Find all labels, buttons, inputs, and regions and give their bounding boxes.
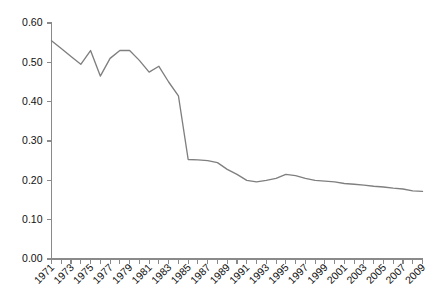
- x-tick-label: 1975: [70, 261, 95, 286]
- line-chart: 0.000.100.200.300.400.500.60 19711973197…: [0, 0, 442, 303]
- x-tick-label: 1973: [51, 261, 76, 286]
- y-tick-label: 0.40: [22, 95, 43, 107]
- x-tick-label: 1987: [188, 261, 213, 286]
- x-tick-label: 2003: [344, 261, 369, 286]
- x-tick-label: 2009: [402, 261, 427, 286]
- y-tick-label: 0.30: [22, 134, 43, 146]
- data-series: [52, 41, 423, 192]
- x-tick-label: 1981: [129, 261, 154, 286]
- series-line: [52, 41, 423, 192]
- x-tick-label: 1983: [149, 261, 174, 286]
- y-tick-label: 0.00: [22, 252, 43, 264]
- x-tick-label: 1989: [207, 261, 232, 286]
- y-axis: 0.000.100.200.300.400.500.60: [22, 16, 51, 264]
- x-tick-label: 2001: [324, 261, 349, 286]
- x-tick-label: 2007: [383, 261, 408, 286]
- x-axis: 1971197319751977197919811983198519871989…: [31, 259, 427, 286]
- x-tick-label: 1999: [305, 261, 330, 286]
- x-tick-label: 1977: [90, 261, 115, 286]
- x-tick-label: 1991: [227, 261, 252, 286]
- x-tick-label: 1971: [31, 261, 56, 286]
- y-tick-label: 0.60: [22, 16, 43, 28]
- y-tick-label: 0.10: [22, 213, 43, 225]
- x-tick-label: 2005: [363, 261, 388, 286]
- x-tick-label: 1985: [168, 261, 193, 286]
- y-tick-label: 0.50: [22, 56, 43, 68]
- x-tick-label: 1993: [246, 261, 271, 286]
- x-tick-label: 1995: [266, 261, 291, 286]
- x-tick-label: 1997: [285, 261, 310, 286]
- chart-canvas: 0.000.100.200.300.400.500.60 19711973197…: [0, 0, 442, 303]
- y-tick-label: 0.20: [22, 174, 43, 186]
- x-tick-label: 1979: [110, 261, 135, 286]
